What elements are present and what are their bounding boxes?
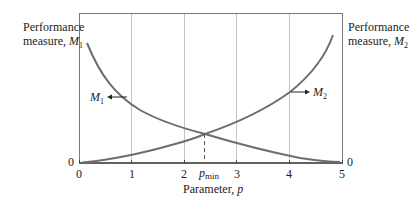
right-zero-label: 0 <box>347 155 353 169</box>
m2-curve <box>82 35 333 163</box>
x-tick-1: 1 <box>129 167 135 181</box>
x-axis-title: Parameter, p <box>183 182 243 196</box>
x-tick-0: 0 <box>76 167 82 181</box>
right-axis-label-line1: Performance <box>348 20 409 34</box>
right-axis-label: Performance measure, M2 <box>348 20 409 53</box>
right-axis-label-line2: measure, M2 <box>348 34 409 53</box>
x-tick-4: 4 <box>286 167 292 181</box>
vertical-gridlines <box>132 13 290 163</box>
left-axis-label: Performance measure, M1 <box>23 20 84 53</box>
m1-curve <box>87 43 340 162</box>
m2-arrow-icon <box>291 90 310 95</box>
x-tick-5: 5 <box>339 167 345 181</box>
x-tick-3: 3 <box>234 167 240 181</box>
plot-frame <box>80 14 343 164</box>
x-tick-2: 2 <box>181 167 187 181</box>
pmin-label: pmin <box>199 166 219 183</box>
left-zero-label: 0 <box>68 155 74 169</box>
left-axis-label-line1: Performance <box>23 20 84 34</box>
left-axis-label-line2: measure, M1 <box>23 34 84 53</box>
m1-label: M1 <box>90 90 104 109</box>
m2-label: M2 <box>313 85 327 104</box>
